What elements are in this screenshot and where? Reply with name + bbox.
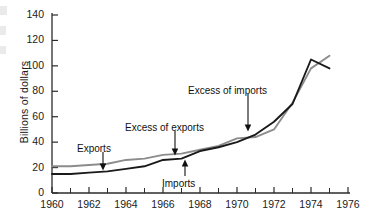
axis-lines: [52, 13, 350, 193]
data-series-lines: [52, 56, 330, 174]
annotation-arrows: [103, 94, 248, 176]
chart-figure: Billions of dollars 020406080100120140 1…: [0, 0, 380, 222]
plot-area: [0, 0, 380, 222]
